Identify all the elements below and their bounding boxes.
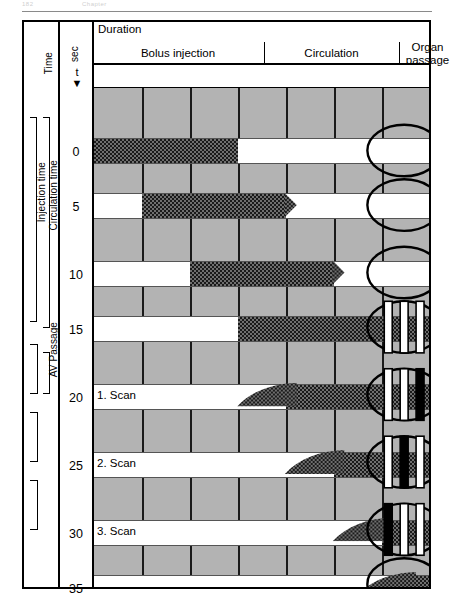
- header-sections: Bolus injection Circulation Organ passag…: [94, 42, 429, 65]
- sec-tick-25: 25: [60, 459, 92, 473]
- row-band-30: [94, 520, 429, 546]
- bolus-block-30: [382, 521, 429, 545]
- row-label-scan-3: 3. Scan: [97, 525, 136, 537]
- bolus-block-20: [286, 385, 429, 409]
- page-number-ghost: 182: [22, 1, 34, 7]
- t-row: [94, 65, 429, 88]
- header-duration: Duration: [98, 23, 141, 35]
- seconds-column: sec t ▼ 0 5 10 15 20 25 30 35: [60, 22, 94, 587]
- bracket-scan-1: [30, 344, 38, 394]
- bolus-block-25: [334, 453, 429, 477]
- row-label-scan-2: 2. Scan: [97, 457, 136, 469]
- bolus-block-10: [190, 262, 334, 286]
- sec-tick-5: 5: [60, 200, 92, 214]
- sec-unit-label: sec: [69, 24, 80, 62]
- bolus-block-35: [406, 576, 429, 587]
- time-label-panel: Time Injection time Circulation time AV …: [24, 22, 60, 587]
- page-header-rule: [22, 11, 432, 12]
- header-circulation: Circulation: [264, 42, 398, 65]
- label-time: Time: [43, 52, 54, 74]
- down-arrow-icon: ▼: [60, 78, 94, 88]
- bolus-block-15: [238, 317, 429, 341]
- chart-header: Duration Bolus injection Circulation Org…: [94, 22, 429, 65]
- bracket-av-passage: [43, 352, 50, 394]
- header-organ-passage: Organ passage: [399, 42, 452, 65]
- page-chapter-ghost: Chapter: [82, 1, 107, 7]
- bracket-scan-3: [30, 480, 38, 530]
- sec-tick-35: 35: [60, 582, 92, 596]
- header-bolus-injection: Bolus injection: [94, 42, 262, 65]
- grid-body: 1. Scan 2. Scan 3. Scan: [94, 88, 429, 587]
- row-label-scan-1: 1. Scan: [97, 389, 136, 401]
- sec-tick-15: 15: [60, 323, 92, 337]
- header-organ-line1: Organ: [406, 41, 449, 53]
- row-band-35: [94, 575, 429, 587]
- diagram-frame: Time Injection time Circulation time AV …: [22, 20, 431, 589]
- sec-tick-30: 30: [60, 527, 92, 541]
- bolus-block-0: [94, 139, 238, 163]
- page-header-ghost: 182 Chapter: [22, 1, 432, 9]
- sec-tick-10: 10: [60, 268, 92, 282]
- bolus-block-5: [142, 194, 286, 218]
- chart-area: Duration Bolus injection Circulation Org…: [94, 22, 429, 587]
- label-circulation-time: Circulation time: [48, 160, 59, 231]
- sec-tick-0: 0: [60, 145, 92, 159]
- bracket-scan-2: [30, 412, 38, 462]
- sec-tick-20: 20: [60, 391, 92, 405]
